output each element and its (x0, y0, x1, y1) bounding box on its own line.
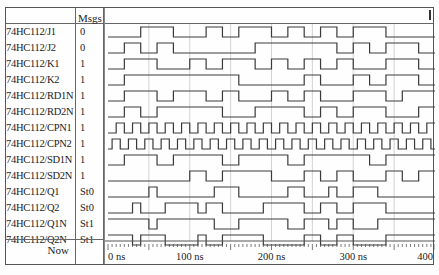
signal-value: St0 (76, 184, 103, 200)
signal-name[interactable]: 74HC112/J2 (6, 40, 75, 56)
signal-value: 0 (76, 40, 103, 56)
time-axis-label: 200 ns (258, 251, 286, 262)
signal-value: St1 (76, 216, 103, 232)
time-axis-label: 300 ns (339, 251, 367, 262)
waveform-trace[interactable] (108, 171, 435, 181)
signal-name[interactable]: 74HC112/Q1N (6, 216, 75, 232)
waveform-trace[interactable] (108, 91, 435, 101)
signal-name[interactable]: 74HC112/CPN2 (6, 136, 75, 152)
signal-name[interactable]: 74HC112/CPN1 (6, 120, 75, 136)
now-label: Now (48, 244, 69, 256)
signal-name[interactable]: 74HC112/RD1N (6, 88, 75, 104)
signal-name-column: 74HC112/J174HC112/J274HC112/K174HC112/K2… (6, 8, 76, 264)
signal-value: 1 (76, 88, 103, 104)
now-row: Now (6, 239, 75, 264)
waveform-pane[interactable]: 0 ns100 ns200 ns300 ns400 (104, 8, 433, 264)
signal-name[interactable]: 74HC112/Q2 (6, 200, 75, 216)
msgs-column-header[interactable]: Msgs (76, 8, 103, 24)
time-axis-label: 0 ns (108, 251, 125, 262)
signal-value: 1 (76, 136, 103, 152)
signal-name[interactable]: 74HC112/J1 (6, 24, 75, 40)
signal-value: 1 (76, 104, 103, 120)
wave-window: 74HC112/J174HC112/J274HC112/K174HC112/K2… (5, 7, 434, 265)
signal-value: 0 (76, 24, 103, 40)
signal-name[interactable]: 74HC112/K1 (6, 56, 75, 72)
waveform-canvas[interactable]: 0 ns100 ns200 ns300 ns400 (105, 8, 435, 266)
signal-name[interactable]: 74HC112/SD2N (6, 168, 75, 184)
time-axis-label: 100 ns (176, 251, 204, 262)
signal-name[interactable]: 74HC112/SD1N (6, 152, 75, 168)
msgs-header-label: Msgs (76, 12, 102, 24)
signal-value: 1 (76, 168, 103, 184)
signal-value: 1 (76, 72, 103, 88)
time-axis-label: 400 (417, 251, 433, 262)
now-value-cell (76, 239, 103, 264)
waveform-trace[interactable] (108, 27, 435, 37)
name-column-header (6, 8, 75, 24)
cursor-marker-icon[interactable] (429, 10, 431, 20)
signal-value: 1 (76, 120, 103, 136)
waveform-trace[interactable] (108, 59, 435, 69)
signal-name[interactable]: 74HC112/Q1 (6, 184, 75, 200)
signal-value: 1 (76, 152, 103, 168)
signal-value: St0 (76, 200, 103, 216)
value-column: Msgs 0011111111St0St0St1St1 (76, 8, 104, 264)
signal-name[interactable]: 74HC112/RD2N (6, 104, 75, 120)
signal-name[interactable]: 74HC112/K2 (6, 72, 75, 88)
signal-value: 1 (76, 56, 103, 72)
waveform-trace[interactable] (108, 123, 435, 133)
